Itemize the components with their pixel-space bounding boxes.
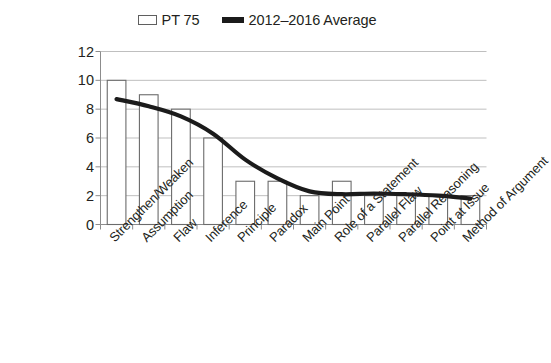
x-category-label-2: Flaw xyxy=(171,216,199,244)
